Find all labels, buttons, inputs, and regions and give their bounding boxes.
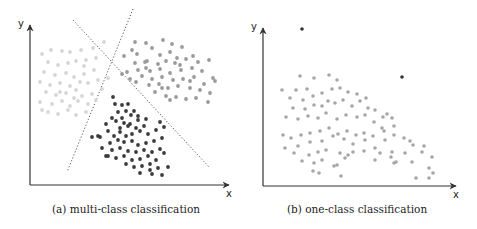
data-point <box>208 91 212 95</box>
inlier-point <box>378 151 382 155</box>
inlier-point <box>390 116 394 120</box>
data-point <box>180 45 184 49</box>
data-point <box>60 49 64 53</box>
inlier-point <box>291 106 295 110</box>
inlier-point <box>308 131 312 135</box>
inlier-point <box>317 171 321 175</box>
inlier-point <box>344 113 348 117</box>
data-point <box>156 62 160 66</box>
data-point <box>72 75 76 79</box>
inlier-point <box>326 99 330 103</box>
data-point <box>125 70 129 74</box>
data-point <box>96 78 100 82</box>
data-point <box>122 121 126 125</box>
data-point <box>79 48 83 52</box>
data-point <box>136 143 140 147</box>
data-point <box>148 69 152 73</box>
inlier-point <box>342 137 346 141</box>
data-point <box>82 72 86 76</box>
data-point <box>126 149 130 153</box>
inlier-point <box>327 73 331 77</box>
data-point <box>54 93 58 97</box>
data-point <box>42 70 46 74</box>
data-point <box>126 124 130 128</box>
data-point <box>150 46 154 50</box>
data-point <box>132 109 136 113</box>
inlier-point <box>392 133 396 137</box>
data-point <box>56 63 60 67</box>
data-point <box>144 141 148 145</box>
inlier-point <box>316 116 320 120</box>
inlier-point <box>427 176 431 180</box>
data-point <box>58 90 62 94</box>
cluster-medium <box>120 38 217 104</box>
data-point <box>133 61 137 65</box>
data-point <box>116 138 120 142</box>
data-point <box>108 141 112 145</box>
data-point <box>118 126 122 130</box>
inlier-point <box>303 107 307 111</box>
data-point <box>114 156 118 160</box>
data-point <box>148 162 152 166</box>
inlier-point <box>311 94 315 98</box>
data-point <box>94 98 98 102</box>
data-point <box>76 99 80 103</box>
data-point <box>122 154 126 158</box>
data-point <box>156 166 160 170</box>
inlier-point <box>316 150 320 154</box>
inlier-point <box>289 136 293 140</box>
data-point <box>188 79 192 83</box>
data-point <box>53 73 57 77</box>
data-point <box>64 71 68 75</box>
data-point <box>164 94 168 98</box>
data-point <box>48 83 52 87</box>
inlier-point <box>320 158 324 162</box>
data-point <box>124 162 128 166</box>
inlier-point <box>366 106 370 110</box>
inlier-point <box>381 115 385 119</box>
inlier-point <box>351 142 355 146</box>
data-point <box>68 50 72 54</box>
inlier-point <box>320 91 324 95</box>
data-point <box>128 77 132 81</box>
inlier-point <box>308 140 312 144</box>
inlier-point <box>355 92 359 96</box>
data-point <box>136 68 140 72</box>
data-point <box>129 113 133 117</box>
data-point <box>166 86 170 90</box>
data-point <box>74 59 78 63</box>
inlier-point <box>430 155 434 159</box>
data-point <box>188 86 192 90</box>
data-point <box>126 102 130 106</box>
data-point <box>176 84 180 88</box>
inlier-point <box>350 104 354 108</box>
inlier-point <box>281 133 285 137</box>
data-point <box>140 74 144 78</box>
inlier-point <box>283 146 287 150</box>
inlier-point <box>383 138 387 142</box>
inlier-point <box>298 74 302 78</box>
inlier-point <box>341 98 345 102</box>
data-point <box>168 98 172 102</box>
data-point <box>143 60 147 64</box>
inlier-point <box>345 129 349 133</box>
data-point <box>120 116 124 120</box>
data-point <box>38 80 42 84</box>
data-point <box>130 158 134 162</box>
inlier-point <box>410 160 414 164</box>
data-point <box>68 84 72 88</box>
inlier-points <box>280 73 435 180</box>
inlier-point <box>343 156 347 160</box>
data-point <box>136 118 140 122</box>
inlier-point <box>331 134 335 138</box>
data-point <box>179 68 183 72</box>
data-point <box>49 48 53 52</box>
data-point <box>161 38 165 42</box>
data-point <box>134 150 138 154</box>
data-point <box>44 90 48 94</box>
data-point <box>157 82 161 86</box>
data-point <box>66 61 70 65</box>
data-point <box>124 109 128 113</box>
inlier-point <box>299 133 303 137</box>
data-point <box>84 110 88 114</box>
